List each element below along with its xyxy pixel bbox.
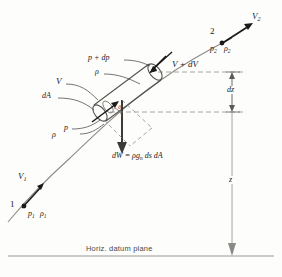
point-1-index: 1	[10, 200, 15, 209]
dashed-element-edge-bottom	[130, 128, 152, 146]
pressure-2-label: p2	[210, 45, 217, 54]
density-upper-label: ρ	[95, 68, 99, 76]
velocity-in-label: V	[56, 77, 62, 86]
velocity-1-label: V1	[18, 172, 27, 182]
pressure-1-label: p1	[28, 210, 35, 219]
streamline-energy-figure: 2 V2 p2 ρ2 1 V1 p1 ρ1 p + dp ρ V dA p ρ …	[0, 0, 282, 277]
dashed-element-edge-right	[122, 100, 152, 128]
density-lower-label: ρ	[52, 131, 56, 139]
dz-arrow-top	[229, 72, 235, 79]
velocity-1-arrow-shaft	[22, 186, 42, 208]
figure-canvas	[0, 0, 282, 277]
z-arrow-bottom	[228, 243, 236, 256]
dz-arrow-bottom	[229, 105, 235, 112]
pressure-upper-label: p + dp	[88, 54, 109, 62]
element-wall-upper	[94, 64, 149, 105]
streamline-tail	[8, 215, 14, 222]
dz-label: dz	[226, 86, 235, 94]
point-2-index: 2	[210, 27, 215, 36]
theta-label: θ	[118, 104, 121, 111]
weight-equation: dW = ρgn ds dA	[112, 152, 163, 161]
leader-pressure-lower	[72, 120, 100, 129]
pressure-lower-label: p	[64, 124, 68, 132]
dashed-element-edge-left	[104, 120, 130, 146]
density-1-label: ρ1	[40, 210, 47, 219]
velocity-2-arrow-shaft	[221, 26, 249, 44]
leader-velocity	[66, 84, 98, 100]
datum-plane-label: Horiz. datum plane	[86, 244, 153, 253]
z-label: z	[228, 176, 233, 184]
leader-density-upper	[104, 74, 140, 84]
velocity-out-arrow-shaft	[152, 52, 172, 70]
leader-area	[58, 98, 94, 110]
area-label: dA	[42, 92, 51, 100]
density-2-label: ρ2	[224, 45, 231, 54]
leader-pressure-upper	[124, 60, 150, 66]
element-wall-lower	[106, 80, 161, 121]
velocity-2-label: V2	[252, 12, 261, 22]
velocity-out-label: V + dV	[172, 60, 198, 69]
